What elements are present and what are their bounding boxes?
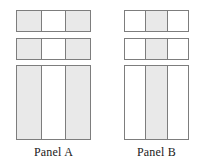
panel-b: Panel B xyxy=(124,0,189,167)
panel-b-row-1-cell-3 xyxy=(168,11,188,31)
panel-a-row-2-cell-3 xyxy=(66,39,90,59)
two-panel-figure: Panel A Panel B xyxy=(0,0,207,167)
panel-b-row-1 xyxy=(124,10,189,32)
panel-b-row-2-cell-3 xyxy=(168,39,188,59)
panel-b-row-3-cell-3 xyxy=(168,66,188,139)
panel-a-row-1-cell-2 xyxy=(42,11,67,31)
panel-a-row-3-cell-2 xyxy=(42,66,67,139)
panel-a-row-1-cell-3 xyxy=(66,11,90,31)
panel-a-row-3-cell-3 xyxy=(66,66,90,139)
panel-b-row-3-cell-1 xyxy=(125,66,146,139)
panel-a-row-1 xyxy=(16,10,91,32)
panel-a: Panel A xyxy=(16,0,91,167)
panel-a-row-1-cell-1 xyxy=(17,11,42,31)
panel-b-row-1-cell-1 xyxy=(125,11,146,31)
panel-b-row-2 xyxy=(124,38,189,60)
panel-a-row-3 xyxy=(16,65,91,140)
panel-a-row-3-cell-1 xyxy=(17,66,42,139)
panel-b-row-2-cell-2 xyxy=(146,39,167,59)
panel-a-row-2 xyxy=(16,38,91,60)
panel-b-row-2-cell-1 xyxy=(125,39,146,59)
panel-b-row-1-cell-2 xyxy=(146,11,167,31)
panel-b-label: Panel B xyxy=(116,145,197,159)
panel-a-row-2-cell-2 xyxy=(42,39,67,59)
panel-b-row-3 xyxy=(124,65,189,140)
panel-b-row-3-cell-2 xyxy=(146,66,167,139)
panel-a-row-2-cell-1 xyxy=(17,39,42,59)
panel-a-label: Panel A xyxy=(8,145,99,159)
